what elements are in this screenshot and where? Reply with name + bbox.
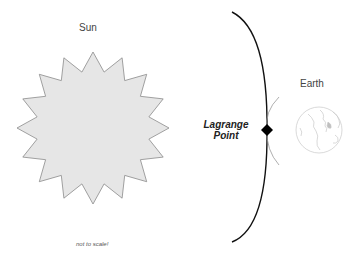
diagram-canvas <box>0 0 358 261</box>
sun-icon <box>17 52 169 204</box>
lagrange-label-line2: Point <box>200 130 252 141</box>
lagrange-point-diamond <box>261 124 273 136</box>
earth-globe-icon <box>296 107 342 153</box>
scale-note: not to scale! <box>76 241 108 247</box>
sun-label: Sun <box>79 22 97 33</box>
lagrange-label-line1: Lagrange <box>200 119 252 130</box>
lagrange-point-label: Lagrange Point <box>200 119 252 141</box>
earth-label: Earth <box>300 78 324 89</box>
